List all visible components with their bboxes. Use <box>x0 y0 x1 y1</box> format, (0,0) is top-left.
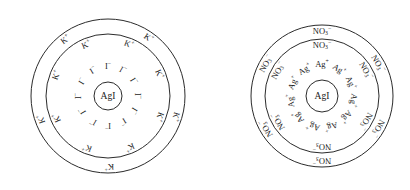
negatively-charged-agi-sol-outer-ring-ion-label: K+ <box>104 162 114 173</box>
positively-charged-agi-sol-middle-ring-ion-label: NO3− <box>313 142 331 153</box>
negatively-charged-agi-sol-outer-ring-ion-label: K+ <box>142 30 156 44</box>
negatively-charged-agi-sol-inner-ring-ion-label: I− <box>128 76 140 87</box>
negatively-charged-agi-sol-inner-ring-ion-label: I− <box>76 76 88 87</box>
negatively-charged-agi-sol-inner-ring-ion-label: I− <box>133 93 144 99</box>
positively-charged-agi-sol-inner-ring-ion-label: Ag+ <box>315 58 329 69</box>
negatively-charged-agi-sol-middle-ring-ion-label: K+ <box>123 37 136 50</box>
positively-charged-agi-sol-outer-ring-ion-label: NO3− <box>313 25 331 36</box>
positively-charged-agi-sol-inner-ring-ion-label: Ag+ <box>296 61 313 77</box>
negatively-charged-agi-sol-inner-ring-ion-label: I− <box>88 116 99 128</box>
positively-charged-agi-sol-inner-ring-ion-label: Ag+ <box>331 61 348 77</box>
positively-charged-agi-sol-outer-ring-ion-label: NO3− <box>313 156 331 167</box>
diagram-canvas: I−I−I−I−I−I−I−I−I−I−I−I−K+K+K+K+K+K+K+K+… <box>0 0 410 190</box>
positively-charged-agi-sol-inner-ring-ion-label: Ag+ <box>338 109 355 126</box>
negatively-charged-agi-sol-inner-ring-ion-label: I− <box>76 106 88 117</box>
negatively-charged-agi-sol-inner-ring-ion-label: I− <box>105 60 111 71</box>
negatively-charged-agi-sol-inner-ring-ion-label: I− <box>88 64 99 76</box>
negatively-charged-agi-sol-middle-ring-ion-label: K+ <box>49 69 62 82</box>
positively-charged-agi-sol-middle-ring-ion-label: NO3− <box>313 39 331 50</box>
positively-charged-agi-sol-inner-ring-ion-label: Ag+ <box>289 109 306 126</box>
negatively-charged-agi-sol-middle-ring-ion-label: K+ <box>81 142 94 155</box>
positively-charged-agi-sol-core-label: AgI <box>315 91 330 101</box>
negatively-charged-agi-sol-inner-ring-ion-label: I− <box>118 116 129 128</box>
negatively-charged-agi-sol-middle-ring-ion-label: K+ <box>154 111 167 124</box>
positively-charged-agi-sol-inner-ring-ion-label: Ag+ <box>285 74 300 91</box>
positively-charged-agi-sol-inner-ring-ion-label: Ag+ <box>305 120 321 134</box>
positively-charged-agi-sol-inner-ring-ion-label: Ag+ <box>348 93 360 108</box>
positively-charged-agi-sol-inner-ring-ion-label: Ag+ <box>344 74 359 91</box>
colloid-diagram-svg: I−I−I−I−I−I−I−I−I−I−I−I−K+K+K+K+K+K+K+K+… <box>0 0 410 190</box>
negatively-charged-agi-sol-inner-ring-ion-label: I− <box>72 93 83 99</box>
negatively-charged-agi-sol-outer-ring-ion-label: K+ <box>170 111 183 123</box>
negatively-charged-agi-sol-inner-ring-ion-label: I− <box>128 106 140 117</box>
negatively-charged-agi-sol: I−I−I−I−I−I−I−I−I−I−I−I−K+K+K+K+K+K+K+K+… <box>31 19 185 173</box>
positively-charged-agi-sol: Ag+Ag+Ag+Ag+Ag+Ag+Ag+Ag+Ag+Ag+Ag+NO3−NO3… <box>251 25 393 167</box>
negatively-charged-agi-sol-core-label: AgI <box>101 91 116 101</box>
positively-charged-agi-sol-inner-ring-ion-label: Ag+ <box>323 120 339 134</box>
negatively-charged-agi-sol-inner-ring-ion-label: I− <box>105 121 111 132</box>
negatively-charged-agi-sol-outer-ring-ion-label: K+ <box>58 32 72 46</box>
positively-charged-agi-sol-inner-ring-ion-label: Ag+ <box>284 93 296 108</box>
negatively-charged-agi-sol-inner-ring-ion-label: I− <box>118 64 129 76</box>
